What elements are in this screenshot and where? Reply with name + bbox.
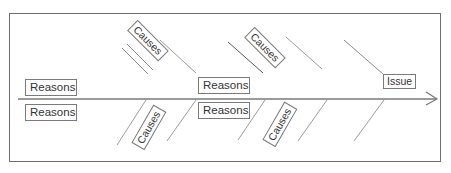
reasons-box: Reasons — [198, 77, 250, 94]
reasons-box: Reasons — [25, 79, 77, 96]
issue-box: Issue — [383, 74, 416, 89]
upper-bone-line — [344, 40, 383, 74]
reasons-box: Reasons — [198, 102, 250, 119]
upper-bone-line — [160, 40, 196, 73]
lower-bone-line — [167, 100, 196, 141]
lower-bone-line — [354, 100, 384, 141]
reasons-box: Reasons — [25, 104, 77, 121]
upper-bone-line — [286, 37, 322, 69]
lower-bone-line — [298, 100, 327, 141]
